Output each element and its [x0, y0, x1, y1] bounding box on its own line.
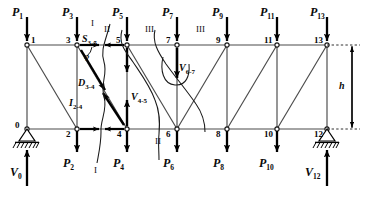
- section-label-I-top: I: [91, 19, 94, 28]
- section-label-II-bottom: II: [155, 137, 161, 146]
- joint-1: [25, 43, 29, 47]
- node-label-4: 4: [117, 130, 122, 139]
- support-pin-left: [13, 129, 39, 148]
- angle-label-phi: φ: [84, 52, 89, 61]
- diagonal-1-2: [27, 45, 77, 129]
- bottom-load-arrows: [77, 131, 277, 152]
- load-label-P5: P5: [112, 6, 123, 21]
- load-label-P4: P4: [113, 157, 124, 172]
- node-label-1: 1: [31, 36, 36, 45]
- node-label-7: 7: [166, 36, 171, 45]
- node-label-0: 0: [15, 121, 20, 130]
- force-arrow-D4-3: [103, 93, 124, 125]
- load-label-P1: P1: [12, 6, 23, 21]
- load-label-P8: P8: [213, 157, 224, 172]
- load-label-P9: P9: [212, 6, 223, 21]
- joint-9: [225, 43, 229, 47]
- section-label-II-top: II: [104, 25, 110, 34]
- section-label-I-bottom: I: [94, 166, 97, 175]
- reaction-label-V0: V0: [10, 166, 22, 181]
- load-label-P7: P7: [162, 6, 173, 21]
- node-label-3: 3: [66, 36, 71, 45]
- joint-3: [75, 43, 79, 47]
- load-label-P11: P11: [260, 6, 274, 21]
- joint-2: [75, 127, 79, 131]
- section-label-III-top-right: III: [196, 25, 205, 34]
- force-label-D3-4: D3-4: [78, 78, 95, 91]
- load-label-P6: P6: [163, 157, 174, 172]
- node-label-8: 8: [216, 130, 221, 139]
- node-label-2: 2: [66, 130, 71, 139]
- node-label-6: 6: [166, 130, 171, 139]
- load-label-P2: P2: [63, 157, 74, 172]
- joint-7: [175, 43, 179, 47]
- load-label-P10: P10: [259, 157, 274, 172]
- joint-8: [225, 127, 229, 131]
- force-label-I2-4: I2-4: [69, 98, 82, 111]
- force-label-S3-5: S3-5: [82, 34, 97, 47]
- node-label-10: 10: [264, 130, 273, 139]
- node-label-12: 12: [314, 130, 323, 139]
- load-label-P13: P13: [310, 6, 325, 21]
- node-label-9: 9: [216, 36, 221, 45]
- node-label-11: 11: [264, 36, 273, 45]
- diagonal-11-8: [227, 45, 277, 129]
- joint-6: [175, 127, 179, 131]
- joint-5: [125, 43, 129, 47]
- node-label-13: 13: [314, 36, 323, 45]
- truss-diagram-root: P1 P3 P5 P7 P9 P11 P13 P2 P4 P6 P8 P10 V…: [0, 0, 371, 197]
- reaction-label-V12: V12: [305, 166, 321, 181]
- joint-4: [125, 127, 129, 131]
- joint-11: [275, 43, 279, 47]
- diagonal-13-10: [277, 45, 327, 129]
- diagonal-5-6: [127, 45, 177, 129]
- force-label-V4-5: V4-5: [131, 92, 147, 105]
- height-label-h: h: [339, 81, 345, 91]
- node-label-5: 5: [116, 36, 121, 45]
- section-label-III-top: III: [145, 25, 154, 34]
- force-label-V6-7: V6-7: [179, 63, 195, 76]
- joint-10: [275, 127, 279, 131]
- load-label-P3: P3: [62, 6, 73, 21]
